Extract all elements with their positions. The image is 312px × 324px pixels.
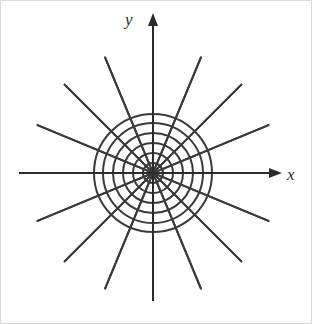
axes-group	[19, 13, 282, 301]
x-axis-label: x	[287, 166, 295, 183]
arrow-up-icon	[148, 13, 158, 26]
polar-grid-canvas	[1, 1, 312, 324]
polar-grid-figure: y x	[0, 0, 312, 324]
arrow-right-icon	[269, 168, 282, 178]
y-axis-label: y	[125, 11, 133, 28]
